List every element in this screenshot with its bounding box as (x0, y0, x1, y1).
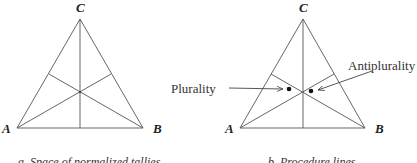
median-a (240, 74, 334, 128)
antiplurality-label: Antiplurality (348, 58, 416, 73)
panel-a-caption: a. Space of normalized tallies (18, 155, 161, 163)
panel-b-caption: b. Procedure lines (268, 155, 356, 163)
plurality-arrow (229, 88, 283, 89)
vertex-b-label: B (374, 121, 384, 136)
vertex-a-label: A (1, 121, 11, 136)
median-b (271, 74, 365, 128)
triangle-outline (240, 19, 365, 128)
plurality-label: Plurality (171, 81, 216, 96)
vertex-a-label: A (224, 121, 234, 136)
antiplurality-arrow (318, 71, 372, 90)
vertex-c-label: C (76, 0, 85, 15)
diagram-canvas: C A B a. Space of normalized tallies C A… (0, 0, 417, 163)
panel-b-triangle (240, 19, 365, 128)
vertex-b-label: B (152, 121, 162, 136)
plurality-point (287, 87, 292, 92)
panel-a-triangle (17, 19, 143, 128)
centroid-dot (79, 91, 81, 93)
vertex-c-label: C (299, 0, 308, 15)
antiplurality-point (309, 89, 314, 94)
